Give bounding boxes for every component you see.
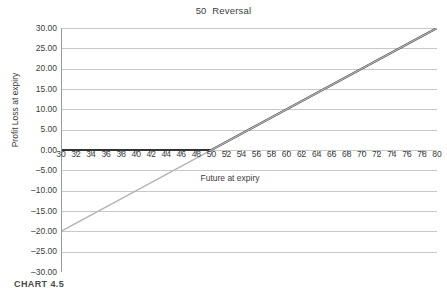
x-tick-label: 36 [101, 150, 110, 159]
series-line-reversal-payoff [61, 28, 437, 231]
x-tick-label: 54 [237, 150, 246, 159]
x-tick-label: 78 [417, 150, 426, 159]
x-tick-label: 32 [71, 150, 80, 159]
y-tick-label: 30.00 [36, 24, 57, 33]
y-tick-label: 20.00 [36, 64, 57, 73]
x-tick-label: 70 [357, 150, 366, 159]
x-tick-label: 34 [86, 150, 95, 159]
y-tick-label: –30.00 [31, 268, 57, 277]
x-tick-label: 42 [147, 150, 156, 159]
y-tick-label: 10.00 [36, 105, 57, 114]
x-tick-label: 72 [372, 150, 381, 159]
x-tick-label: 52 [222, 150, 231, 159]
y-axis-tick-labels: 30.0025.0020.0015.0010.005.000.00–5.00–1… [0, 28, 57, 272]
x-tick-label: 30 [56, 150, 65, 159]
chart-figure: 50 Reversal Profit Loss at expiry 30.002… [0, 0, 447, 288]
x-tick-label: 68 [342, 150, 351, 159]
chart-title: 50 Reversal [0, 5, 447, 16]
x-tick-label: 74 [387, 150, 396, 159]
x-tick-label: 66 [327, 150, 336, 159]
x-axis-title: Future at expiry [150, 173, 310, 183]
y-tick-label: 15.00 [36, 85, 57, 94]
x-tick-label: 38 [116, 150, 125, 159]
x-tick-label: 58 [267, 150, 276, 159]
data-series-group [61, 28, 437, 231]
x-tick-label: 62 [297, 150, 306, 159]
y-tick-label: 25.00 [36, 44, 57, 53]
x-tick-label: 44 [162, 150, 171, 159]
y-tick-label: 5.00 [40, 125, 57, 134]
y-tick-label: –15.00 [31, 207, 57, 216]
y-tick-label: –25.00 [31, 247, 57, 256]
x-tick-label: 40 [131, 150, 140, 159]
y-tick-label: 0.00 [40, 146, 57, 155]
x-tick-label: 76 [402, 150, 411, 159]
x-tick-label: 80 [432, 150, 441, 159]
figure-caption: CHART 4.5 [14, 279, 64, 288]
y-tick-label: –20.00 [31, 227, 57, 236]
y-tick-label: –5.00 [36, 166, 57, 175]
x-tick-label: 50 [207, 150, 216, 159]
x-tick-label: 64 [312, 150, 321, 159]
x-tick-label: 56 [252, 150, 261, 159]
y-tick-label: –10.00 [31, 186, 57, 195]
x-tick-label: 46 [177, 150, 186, 159]
x-tick-label: 60 [282, 150, 291, 159]
x-tick-label: 48 [192, 150, 201, 159]
x-axis-tick-labels: 3032343638404244464850525456586062646668… [61, 150, 437, 162]
